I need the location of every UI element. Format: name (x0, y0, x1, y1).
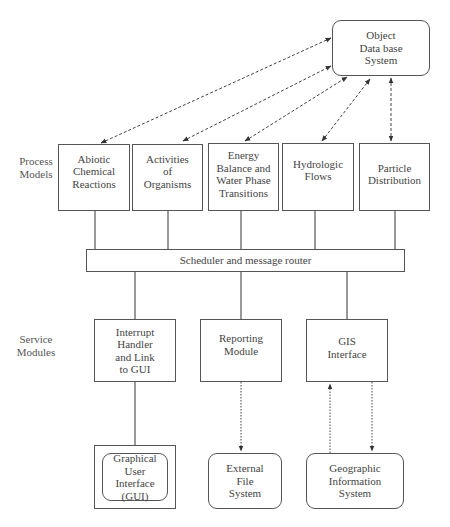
object-database-node: Object Data base System (332, 20, 430, 76)
node-label: Scheduler and message router (180, 254, 312, 267)
abiotic-chemical-reactions-node: Abiotic Chemical Reactions (58, 144, 130, 211)
node-label: Energy Balance and Water Phase Transitio… (216, 149, 270, 199)
node-label: Abiotic Chemical Reactions (72, 153, 115, 191)
scheduler-router-node: Scheduler and message router (86, 249, 405, 272)
node-label: Activities of Organisms (144, 153, 191, 191)
activities-of-organisms-node: Activities of Organisms (132, 144, 203, 211)
node-label: Geographic Information System (329, 462, 382, 500)
process-models-row-label: Process Models (14, 155, 58, 180)
node-label: GIS Interface (327, 335, 366, 360)
hydrologic-flows-node: Hydrologic Flows (282, 143, 354, 211)
node-label: Reporting Module (219, 332, 263, 357)
node-label: Particle Distribution (368, 162, 421, 187)
node-label: Graphical User Interface (GUI) (113, 452, 156, 502)
node-label: Hydrologic Flows (293, 158, 343, 183)
object-database-label: Object Data base System (359, 29, 402, 67)
particle-distribution-node: Particle Distribution (359, 143, 430, 211)
external-file-system-node: External File System (208, 453, 282, 509)
geographic-information-system-node: Geographic Information System (306, 453, 404, 509)
gui-node: Graphical User Interface (GUI) (102, 453, 168, 501)
interrupt-handler-node: Interrupt Handler and Link to GUI (94, 319, 176, 382)
node-label: External File System (226, 462, 263, 500)
gis-interface-node: GIS Interface (306, 319, 388, 382)
service-modules-row-label: Service Modules (14, 333, 58, 358)
node-label: Interrupt Handler and Link to GUI (115, 326, 154, 376)
gui-outer-frame: Graphical User Interface (GUI) (94, 445, 176, 509)
reporting-module-node: Reporting Module (200, 319, 282, 382)
energy-balance-node: Energy Balance and Water Phase Transitio… (208, 143, 279, 211)
